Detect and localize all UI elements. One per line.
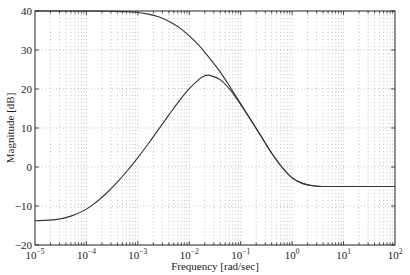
y-tick-label: 10 xyxy=(21,122,33,134)
y-tick-labels: −20−10010203040 xyxy=(15,5,33,251)
x-tick-label: 102 xyxy=(388,247,403,261)
grid-lines xyxy=(35,11,395,245)
data-series xyxy=(35,11,395,221)
y-tick-label: 0 xyxy=(27,161,33,173)
y-tick-label: 30 xyxy=(21,44,33,56)
y-tick-label: 20 xyxy=(21,83,33,95)
bode-magnitude-chart: −20−10010203040 10−510−410−310−210−11001… xyxy=(0,0,410,275)
x-tick-labels: 10−510−410−310−210−1100101102 xyxy=(26,247,403,261)
y-axis-label: Magnitude [dB] xyxy=(4,93,16,164)
x-axis-label: Frequency [rad/sec] xyxy=(171,260,259,272)
x-tick-label: 10−3 xyxy=(128,247,147,261)
x-tick-label: 100 xyxy=(285,247,300,261)
x-tick-label: 101 xyxy=(336,247,351,261)
x-tick-label: 10−5 xyxy=(26,247,45,261)
x-tick-label: 10−2 xyxy=(180,247,199,261)
y-tick-label: −10 xyxy=(15,200,33,212)
x-tick-label: 10−4 xyxy=(77,247,96,261)
y-tick-label: 40 xyxy=(21,5,33,17)
x-tick-label: 10−1 xyxy=(231,247,250,261)
